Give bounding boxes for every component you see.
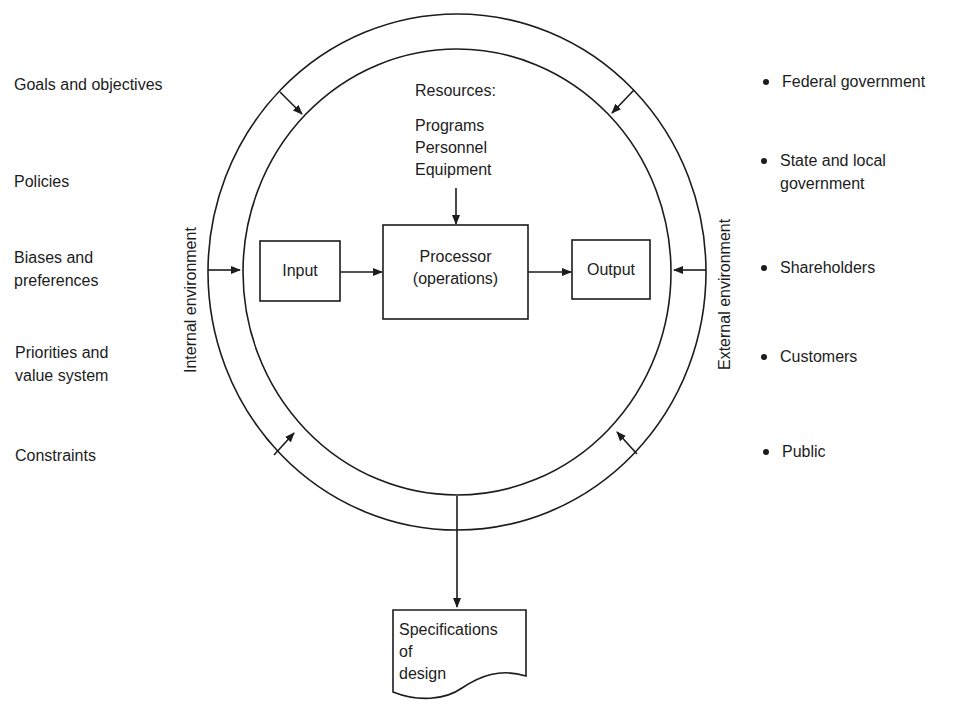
external-item-state-local: State and local government bbox=[780, 149, 886, 195]
arrow-top-left bbox=[280, 92, 302, 114]
specifications-label: Specifications of design bbox=[399, 619, 498, 685]
internal-item-label: Policies bbox=[14, 173, 69, 190]
specifications-line2: of bbox=[399, 641, 498, 663]
bullet-icon bbox=[761, 354, 767, 360]
resources-list: Programs Personnel Equipment bbox=[415, 115, 492, 181]
internal-item-label-line2: preferences bbox=[14, 269, 99, 292]
external-item-label-line2: government bbox=[780, 172, 886, 195]
external-item-public: Public bbox=[782, 440, 826, 463]
internal-item-label-line2: value system bbox=[15, 364, 108, 387]
arrow-top-right bbox=[612, 90, 634, 113]
bullet-icon bbox=[763, 449, 769, 455]
internal-item-constraints: Constraints bbox=[15, 444, 96, 467]
resource-equipment: Equipment bbox=[415, 159, 492, 181]
specifications-line3: design bbox=[399, 663, 498, 685]
bullet-icon bbox=[763, 79, 769, 85]
external-item-customers: Customers bbox=[780, 345, 857, 368]
specifications-line1: Specifications bbox=[399, 619, 498, 641]
output-label: Output bbox=[572, 259, 650, 281]
external-item-label: Federal government bbox=[782, 73, 925, 90]
input-label: Input bbox=[260, 260, 340, 282]
processor-label: Processor (operations) bbox=[383, 246, 528, 290]
processor-label-line2: (operations) bbox=[383, 268, 528, 290]
external-item-shareholders: Shareholders bbox=[780, 256, 875, 279]
internal-item-biases: Biases and preferences bbox=[14, 246, 99, 292]
external-item-label: Shareholders bbox=[780, 259, 875, 276]
internal-item-label-line1: Biases and bbox=[14, 246, 99, 269]
internal-item-label: Goals and objectives bbox=[14, 76, 163, 93]
external-item-label: Public bbox=[782, 443, 826, 460]
internal-item-policies: Policies bbox=[14, 170, 69, 193]
internal-item-priorities: Priorities and value system bbox=[15, 341, 108, 387]
internal-item-goals: Goals and objectives bbox=[14, 73, 163, 96]
arrow-bottom-right bbox=[617, 432, 637, 454]
resource-personnel: Personnel bbox=[415, 137, 492, 159]
external-item-label-line1: State and local bbox=[780, 149, 886, 172]
resources-title: Resources: bbox=[415, 80, 496, 102]
bullet-icon bbox=[761, 265, 767, 271]
internal-item-label-line1: Priorities and bbox=[15, 341, 108, 364]
processor-label-line1: Processor bbox=[383, 246, 528, 268]
resource-programs: Programs bbox=[415, 115, 492, 137]
external-environment-label: External environment bbox=[716, 219, 734, 370]
bullet-icon bbox=[761, 158, 767, 164]
internal-environment-label: Internal environment bbox=[182, 227, 200, 373]
external-item-label: Customers bbox=[780, 348, 857, 365]
internal-item-label: Constraints bbox=[15, 447, 96, 464]
external-item-federal: Federal government bbox=[782, 70, 925, 93]
arrow-bottom-left bbox=[274, 433, 294, 455]
